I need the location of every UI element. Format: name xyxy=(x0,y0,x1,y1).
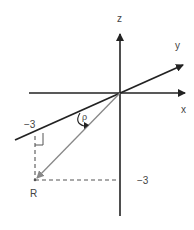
x-axis-label: x xyxy=(181,104,186,115)
y-axis xyxy=(15,65,183,140)
coordinate-diagram: z y x ρ −3 −3 R xyxy=(0,0,194,230)
y-tick-neg3-label: −3 xyxy=(24,119,36,130)
z-axis-label: z xyxy=(117,13,122,24)
z-tick-neg3-label: −3 xyxy=(137,175,149,186)
vector-to-r xyxy=(37,93,120,178)
angle-label: ρ xyxy=(82,112,87,122)
point-r xyxy=(34,179,37,182)
point-r-label: R xyxy=(30,188,37,199)
right-angle-marker xyxy=(35,133,43,145)
y-axis-label: y xyxy=(175,40,180,51)
